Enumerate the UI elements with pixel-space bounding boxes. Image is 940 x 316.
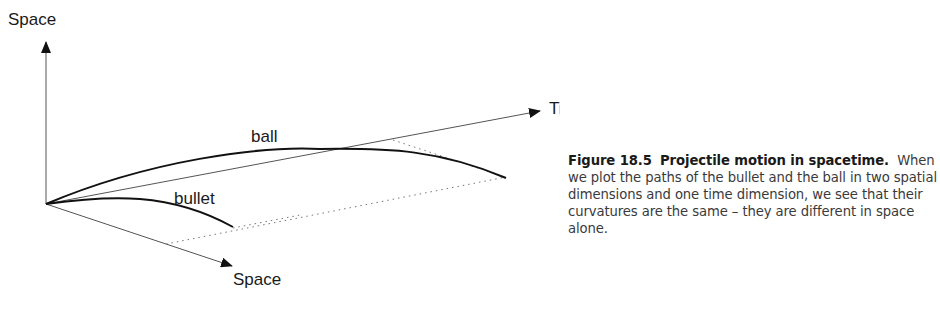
dotted-projection-lower [166, 177, 506, 244]
figure-number: Figure 18.5 [568, 153, 652, 168]
figure-caption: Figure 18.5 Projectile motion in spaceti… [568, 152, 940, 237]
ball-path [46, 149, 506, 204]
ball-label: ball [251, 127, 277, 146]
time-label: Time [549, 99, 560, 118]
bullet-label: bullet [174, 189, 215, 208]
figure-title: Projectile motion in spacetime. [660, 153, 889, 168]
time-axis [46, 111, 540, 204]
dotted-projection-bullet [233, 215, 300, 228]
space-depth-label: Space [233, 270, 281, 289]
spacetime-diagram: Space Time Space ball bullet [0, 0, 560, 316]
space-vertical-label: Space [8, 10, 56, 29]
